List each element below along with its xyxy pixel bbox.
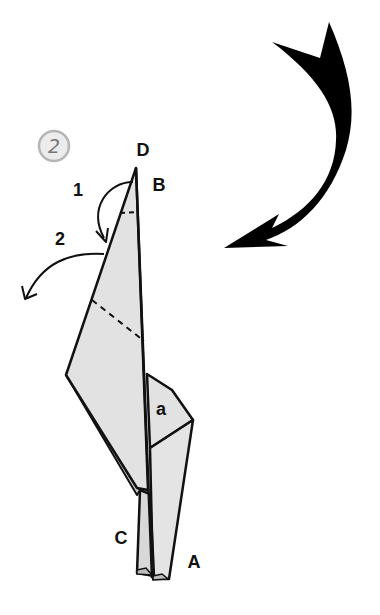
origami-diagram: 2 D B 1 2 a C A <box>0 0 380 615</box>
label-d: D <box>137 140 150 160</box>
turn-over-arrow-icon <box>224 22 352 248</box>
fold-arrow-2 <box>22 254 104 299</box>
step-number: 2 <box>48 135 60 157</box>
label-flap-a: a <box>156 399 167 419</box>
label-step-2: 2 <box>55 229 65 249</box>
label-step-1: 1 <box>73 180 83 200</box>
label-a: A <box>188 552 201 572</box>
label-c: C <box>115 528 128 548</box>
step-badge: 2 <box>39 131 69 161</box>
label-b: B <box>153 175 166 195</box>
paper-main-flap <box>66 168 148 490</box>
